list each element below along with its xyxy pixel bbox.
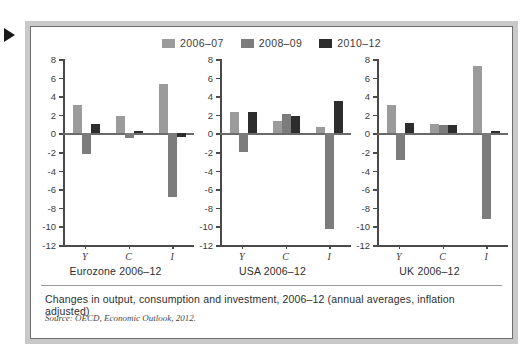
chart-panel-title: UK 2006–12 (351, 265, 508, 277)
bar-slot (125, 59, 134, 245)
y-tick (373, 96, 378, 98)
bar-slot (168, 59, 177, 245)
y-tick-label: 4 (51, 91, 56, 102)
chart-panel: 86420-2-4-6-8-10-12YCIEurozone 2006–12 (37, 59, 194, 281)
chart-panel: 86420-2-4-6-8-10-12YCIUK 2006–12 (351, 59, 508, 281)
bar (159, 84, 168, 133)
legend-swatch-icon (319, 39, 332, 48)
x-tick-label: C (282, 251, 289, 262)
y-tick-label: -4 (205, 165, 213, 176)
bar (125, 133, 134, 138)
y-tick-label: -8 (205, 202, 213, 213)
charts-row: 86420-2-4-6-8-10-12YCIEurozone 2006–1286… (37, 59, 508, 281)
bars-layer (379, 59, 509, 245)
y-tick-label: -2 (48, 147, 56, 158)
bar-slot (491, 59, 500, 245)
y-tick-label: -10 (356, 221, 370, 232)
y-tick-label: 4 (208, 91, 213, 102)
bar (439, 125, 448, 133)
bar (134, 131, 143, 134)
y-tick-label: -4 (48, 165, 56, 176)
bar (168, 133, 177, 196)
y-tick (216, 59, 221, 61)
y-tick (216, 208, 221, 210)
bar-slot (73, 59, 82, 245)
y-tick (373, 189, 378, 191)
y-tick (216, 171, 221, 173)
chart-panel: 86420-2-4-6-8-10-12YCIUSA 2006–12 (194, 59, 351, 281)
y-tick-label: -2 (205, 147, 213, 158)
y-tick-label: 8 (51, 54, 56, 65)
bar (291, 116, 300, 133)
y-tick (373, 152, 378, 154)
bar-slot (230, 59, 239, 245)
bar-group (114, 59, 144, 245)
bar-group (157, 59, 187, 245)
bar-slot (448, 59, 457, 245)
bar (448, 125, 457, 133)
bar-slot (91, 59, 100, 245)
y-tick (216, 152, 221, 154)
y-tick (216, 226, 221, 228)
bar-group (385, 59, 415, 245)
y-tick (216, 96, 221, 98)
y-tick (59, 115, 64, 117)
bar (239, 133, 248, 152)
plot-area: 86420-2-4-6-8-10-12YCI (63, 59, 194, 245)
bar-slot (282, 59, 291, 245)
y-tick-label: 8 (208, 54, 213, 65)
y-tick-label: -4 (362, 165, 370, 176)
bar-slot (396, 59, 405, 245)
bar-slot (239, 59, 248, 245)
y-tick (59, 171, 64, 173)
bar-slot (159, 59, 168, 245)
bar-slot (116, 59, 125, 245)
y-tick (59, 208, 64, 210)
figure-page: 2006–072008–092010–12 86420-2-4-6-8-10-1… (0, 0, 525, 352)
x-tick-label: I (170, 251, 173, 262)
y-tick-label: -8 (48, 202, 56, 213)
y-tick-label: -12 (199, 240, 213, 251)
chart-legend: 2006–072008–092010–12 (31, 37, 512, 49)
bar-slot (134, 59, 143, 245)
legend-entry: 2010–12 (319, 37, 381, 49)
bar (396, 133, 405, 160)
y-tick (216, 78, 221, 80)
y-tick (373, 59, 378, 61)
y-tick (373, 115, 378, 117)
y-tick-label: -12 (356, 240, 370, 251)
x-tick-label: I (484, 251, 487, 262)
x-tick-label: Y (82, 251, 88, 262)
bar (116, 116, 125, 134)
y-tick-label: -8 (362, 202, 370, 213)
y-tick-label: -2 (362, 147, 370, 158)
y-tick (373, 171, 378, 173)
y-tick (59, 226, 64, 228)
y-tick (373, 226, 378, 228)
play-triangle-icon (4, 28, 15, 42)
x-tick-label: C (125, 251, 132, 262)
bar (387, 105, 396, 134)
figure-source: Source: OECD, Economic Outlook, 2012. (45, 313, 502, 323)
bar-group (471, 59, 501, 245)
y-tick-label: -6 (205, 184, 213, 195)
y-tick (373, 78, 378, 80)
bar-group (71, 59, 101, 245)
bars-layer (65, 59, 195, 245)
x-tick (85, 245, 87, 249)
bar (430, 124, 439, 133)
bar-slot (439, 59, 448, 245)
bars-layer (222, 59, 352, 245)
y-tick (59, 189, 64, 191)
bar-slot (316, 59, 325, 245)
bar-slot (325, 59, 334, 245)
figure-frame: 2006–072008–092010–12 86420-2-4-6-8-10-1… (25, 21, 518, 344)
y-tick-label: 6 (365, 72, 370, 83)
y-tick-label: 0 (208, 128, 213, 139)
legend-entry: 2006–07 (162, 37, 224, 49)
y-tick-label: 8 (365, 54, 370, 65)
bar (482, 133, 491, 219)
x-tick (129, 245, 131, 249)
y-tick-label: -6 (362, 184, 370, 195)
legend-entry: 2008–09 (241, 37, 303, 49)
